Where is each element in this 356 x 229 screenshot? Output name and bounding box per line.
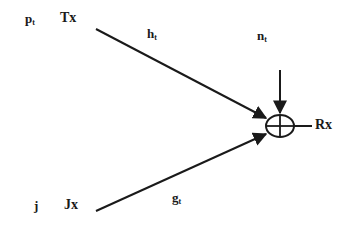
channel-g-label: gt xyxy=(172,191,181,206)
tx-power-label: pt xyxy=(25,12,35,27)
signal-flow-diagram: pt Tx ht nt Rx j Jx gt xyxy=(0,0,356,229)
channel-h-label: ht xyxy=(147,27,157,42)
channel-h-subscript: t xyxy=(154,33,157,42)
jammer-label: Jx xyxy=(64,198,78,212)
jammer-power-symbol: j xyxy=(34,198,38,213)
jammer-power-label: j xyxy=(34,199,38,214)
noise-label: nt xyxy=(257,29,267,44)
channel-h-arrow xyxy=(96,29,266,118)
channel-g-subscript: t xyxy=(179,197,182,206)
summing-node-icon xyxy=(266,115,294,137)
noise-subscript: t xyxy=(264,35,267,44)
receiver-label: Rx xyxy=(315,118,332,132)
tx-power-subscript: t xyxy=(32,18,35,27)
transmitter-label: Tx xyxy=(60,11,76,25)
